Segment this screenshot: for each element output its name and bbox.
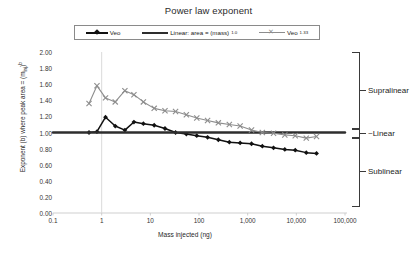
series-marker-diamond xyxy=(238,141,243,146)
bracket-label-sublinear: Sublinear xyxy=(368,167,402,176)
series-marker-diamond xyxy=(304,150,309,155)
series-marker-diamond xyxy=(260,144,265,149)
bracket-tick xyxy=(360,90,366,91)
series-marker-diamond xyxy=(271,145,276,150)
chart-root: Power law exponent Veo Linear: area = (m… xyxy=(0,0,417,265)
bracket-tick xyxy=(360,171,366,172)
series-marker-x xyxy=(86,101,91,106)
series-marker-diamond xyxy=(314,151,319,156)
series-marker-x xyxy=(141,99,146,104)
series-marker-x xyxy=(131,92,136,97)
bracket-tick xyxy=(360,133,366,134)
series-marker-diamond xyxy=(293,148,298,153)
series-marker-x xyxy=(103,95,108,100)
series-marker-diamond xyxy=(141,121,146,126)
bracket-label-linear: ~Linear xyxy=(368,128,395,137)
series-line-Veo xyxy=(89,117,317,153)
bracket xyxy=(352,137,360,207)
series-marker-diamond xyxy=(216,137,221,142)
series-marker-x xyxy=(122,88,127,93)
series-marker-x xyxy=(113,99,118,104)
series-marker-diamond xyxy=(249,141,254,146)
bracket-label-supralinear: Supralinear xyxy=(368,85,409,94)
series-marker-diamond xyxy=(282,147,287,152)
series-marker-x xyxy=(94,83,99,88)
series-marker-diamond xyxy=(163,126,168,131)
series-marker-diamond xyxy=(227,140,232,145)
bracket xyxy=(352,52,360,130)
series-marker-diamond xyxy=(194,133,199,138)
series-marker-diamond xyxy=(205,135,210,140)
series-marker-diamond xyxy=(152,123,157,128)
